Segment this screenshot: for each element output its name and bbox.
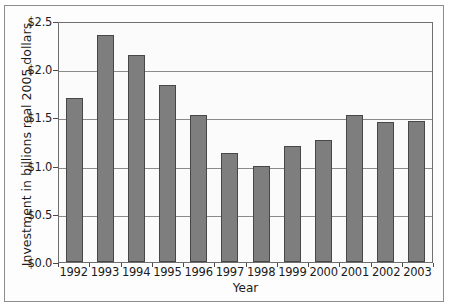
bar-slot [121,23,152,262]
bar-series [59,23,432,262]
bar-slot [245,23,276,262]
bar-slot [59,23,90,262]
x-tick-label: 1998 [246,265,277,279]
bar-slot [277,23,308,262]
bar-slot [90,23,121,262]
y-tick-mark [53,215,58,216]
bar-2000[interactable] [315,140,332,262]
y-tick-mark [53,70,58,71]
x-tick-label: 1999 [277,265,308,279]
bar-1994[interactable] [128,55,145,262]
bar-2001[interactable] [346,115,363,262]
x-axis-label: Year [58,281,433,295]
bar-2003[interactable] [408,121,425,262]
bar-2002[interactable] [377,122,394,262]
bar-1998[interactable] [253,166,270,262]
x-axis-tick-labels: 1992199319941995199619971998199920002001… [58,265,433,279]
x-tick-label: 2001 [339,265,370,279]
y-tick-mark [53,118,58,119]
y-tick-mark [53,22,58,23]
x-tick-label: 2002 [371,265,402,279]
x-tick-label: 1992 [58,265,89,279]
bar-1999[interactable] [284,146,301,262]
bar-slot [152,23,183,262]
y-tick-mark [53,167,58,168]
bar-slot [183,23,214,262]
bar-slot [339,23,370,262]
bar-1992[interactable] [66,98,83,262]
x-tick-label: 1995 [152,265,183,279]
bar-1995[interactable] [159,85,176,262]
bar-slot [214,23,245,262]
x-tick-label: 1997 [214,265,245,279]
x-tick-label: 2003 [402,265,433,279]
bar-1993[interactable] [97,35,114,262]
bar-slot [370,23,401,262]
y-axis-label: Investment in billions real 2005 dollars [19,20,34,270]
plot-area [58,22,433,263]
chart-figure: $0.0$0.5$1.0$1.5$2.0$2.5 199219931994199… [4,5,444,302]
bar-slot [401,23,432,262]
x-tick-mark [433,263,434,267]
bar-1997[interactable] [221,153,238,262]
x-tick-label: 1996 [183,265,214,279]
x-tick-label: 1994 [121,265,152,279]
bar-slot [308,23,339,262]
bar-1996[interactable] [190,115,207,262]
x-tick-label: 1993 [89,265,120,279]
x-tick-label: 2000 [308,265,339,279]
